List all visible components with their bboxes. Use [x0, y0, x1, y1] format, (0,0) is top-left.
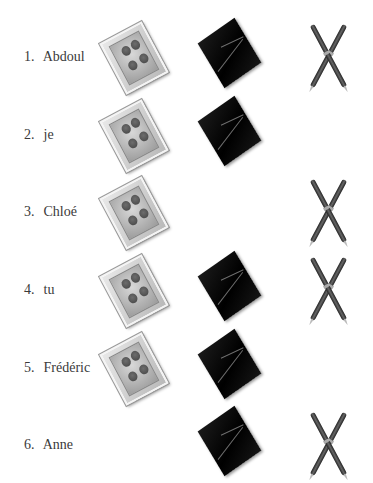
family-photo-icon [99, 21, 169, 95]
black-marble-box-icon [198, 18, 262, 88]
worksheet-row: 5. Frédéric [0, 328, 373, 408]
item-number: 2. [24, 127, 40, 143]
item-name: Abdoul [43, 49, 85, 64]
black-marble-box-icon [198, 329, 262, 399]
item-name: Chloé [44, 204, 77, 219]
item-name: Frédéric [44, 360, 91, 375]
item-number: 5. [24, 360, 40, 376]
item-number: 1. [24, 49, 40, 65]
black-marble-box-icon [198, 96, 262, 166]
family-photo-icon [99, 99, 169, 173]
worksheet-row: 6. Anne [0, 405, 373, 483]
worksheet-row: 4. tu [0, 250, 373, 330]
item-name: je [44, 127, 54, 142]
item-label: 6. Anne [24, 437, 73, 453]
item-number: 3. [24, 204, 40, 220]
item-name: Anne [43, 437, 73, 452]
family-photo-icon [99, 176, 169, 250]
item-label: 2. je [24, 127, 54, 143]
black-marble-box-icon [198, 251, 262, 321]
item-label: 1. Abdoul [24, 49, 85, 65]
worksheet-row: 1. Abdoul [0, 17, 373, 97]
item-label: 4. tu [24, 282, 54, 298]
crossed-pens-icon [298, 19, 360, 91]
item-name: tu [44, 282, 55, 297]
worksheet-row: 3. Chloé [0, 172, 373, 252]
item-number: 6. [24, 437, 40, 453]
family-photo-icon [99, 332, 169, 406]
crossed-pens-icon [298, 407, 360, 479]
item-label: 5. Frédéric [24, 360, 90, 376]
family-photo-icon [99, 254, 169, 328]
item-number: 4. [24, 282, 40, 298]
crossed-pens-icon [298, 252, 360, 324]
item-label: 3. Chloé [24, 204, 77, 220]
worksheet-row: 2. je [0, 95, 373, 175]
crossed-pens-icon [298, 174, 360, 246]
black-marble-box-icon [198, 406, 262, 476]
